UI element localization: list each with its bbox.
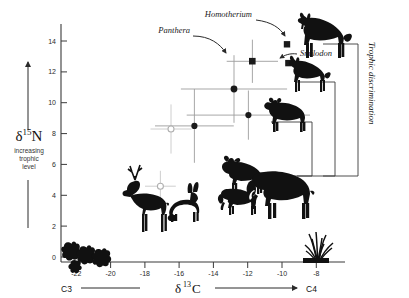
trophic-note-line3: level bbox=[2, 163, 56, 171]
trophic-note: increasing trophic level bbox=[2, 147, 56, 171]
bear-icon bbox=[264, 98, 305, 132]
grass-tuft-icon bbox=[305, 232, 333, 262]
grass-base bbox=[303, 258, 329, 263]
sabertooth-cat-icon bbox=[298, 13, 352, 58]
y-axis-title-sup: 15 bbox=[23, 127, 32, 137]
y-axis-title: δ15N bbox=[2, 128, 56, 144]
oak-leaves-icon bbox=[61, 242, 111, 274]
silhouette-layer bbox=[0, 0, 409, 298]
hare-icon bbox=[168, 182, 200, 222]
mammoth-icon bbox=[247, 171, 315, 219]
trophic-note-line2: trophic bbox=[2, 155, 56, 163]
trophic-note-line1: increasing bbox=[2, 147, 56, 155]
trophic-discrimination-label: Trophic discrimination bbox=[367, 42, 377, 124]
chart-canvas: 0 2 4 6 8 10 12 14 -22 -20 -18 -16 -14 - bbox=[0, 0, 409, 298]
y-axis-title-delta: δ bbox=[16, 128, 23, 144]
y-axis-title-block: δ15N increasing trophic level bbox=[2, 128, 56, 171]
wolf-icon bbox=[289, 56, 331, 92]
deer-icon bbox=[123, 165, 170, 232]
y-axis-title-element: N bbox=[32, 128, 43, 144]
